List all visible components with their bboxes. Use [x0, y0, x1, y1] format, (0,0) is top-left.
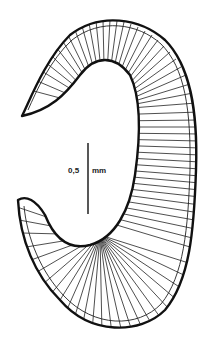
scale-value: 0,5	[68, 166, 79, 176]
scale-unit: mm	[92, 166, 106, 176]
specimen-drawing	[0, 0, 213, 346]
